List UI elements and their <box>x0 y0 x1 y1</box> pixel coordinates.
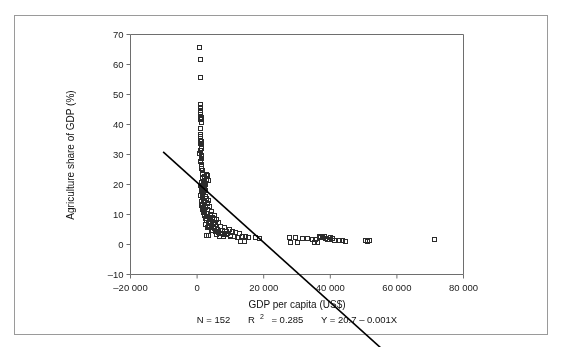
y-tick-label: 30 <box>0 150 124 160</box>
scatter-plot-canvas <box>0 0 561 347</box>
y-tick-label: 60 <box>0 60 124 70</box>
y-tick-label: 10 <box>0 210 124 220</box>
y-tick-label: –10 <box>0 270 124 280</box>
regression-equation-label: Y = 20.7 – 0.001X <box>321 314 397 325</box>
y-tick-label: 40 <box>0 120 124 130</box>
y-axis-title: Agriculture share of GDP (%) <box>65 90 76 219</box>
r-squared-label: R2 = 0.285 <box>243 314 308 325</box>
y-tick-label: 0 <box>0 240 124 250</box>
x-tick-label: 20 000 <box>249 283 278 293</box>
y-tick-label: 20 <box>0 180 124 190</box>
x-tick-label: –20 000 <box>113 283 147 293</box>
y-tick-label: 50 <box>0 90 124 100</box>
x-axis-title: GDP per capita (US$) <box>248 299 345 310</box>
x-tick-label: 40 000 <box>316 283 345 293</box>
stats-caption: N = 152 R2 = 0.285 Y = 20.7 – 0.001X <box>192 313 402 325</box>
x-tick-label: 0 <box>194 283 199 293</box>
x-tick-label: 60 000 <box>382 283 411 293</box>
x-tick-label: 80 000 <box>449 283 478 293</box>
y-tick-label: 70 <box>0 30 124 40</box>
sample-size-label: N = 152 <box>197 314 231 325</box>
